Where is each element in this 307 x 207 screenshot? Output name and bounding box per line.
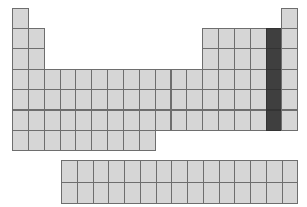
actinide-cell [219, 182, 236, 205]
element-cell [28, 69, 45, 90]
element-cell [60, 89, 77, 110]
actinide-cell [171, 182, 188, 205]
halogen-cell [266, 48, 283, 69]
element-cell [281, 69, 298, 90]
element-cell [202, 69, 219, 90]
element-cell [123, 69, 140, 90]
halogen-cell [266, 28, 283, 49]
element-cell [250, 69, 267, 90]
element-cell [60, 110, 77, 131]
element-cell [250, 89, 267, 110]
element-cell [281, 48, 298, 69]
element-cell [91, 110, 108, 131]
element-cell [12, 110, 29, 131]
actinide-cell [187, 182, 204, 205]
element-cell [28, 130, 45, 151]
element-cell [250, 48, 267, 69]
actinide-cell [140, 182, 157, 205]
actinide-cell [250, 182, 267, 205]
lanthanide-cell [266, 160, 283, 183]
element-cell [234, 48, 251, 69]
element-cell [218, 89, 235, 110]
element-cell [155, 89, 172, 110]
element-cell [139, 69, 156, 90]
halogen-cell [266, 89, 283, 110]
element-cell [218, 110, 235, 131]
element-cell [171, 110, 188, 131]
element-cell [171, 89, 188, 110]
element-cell [107, 69, 124, 90]
element-cell [28, 89, 45, 110]
element-cell [218, 28, 235, 49]
element-cell [234, 69, 251, 90]
actinide-cell [93, 182, 110, 205]
element-cell [123, 130, 140, 151]
element-cell [44, 130, 61, 151]
lanthanide-cell [124, 160, 141, 183]
lanthanide-cell [61, 160, 78, 183]
element-cell [202, 89, 219, 110]
element-cell [44, 69, 61, 90]
element-cell [139, 110, 156, 131]
actinide-cell [266, 182, 283, 205]
element-cell [28, 28, 45, 49]
lanthanide-cell [140, 160, 157, 183]
actinide-cell [77, 182, 94, 205]
element-cell [12, 8, 29, 29]
lanthanide-cell [250, 160, 267, 183]
element-cell [91, 130, 108, 151]
element-cell [250, 110, 267, 131]
actinide-cell [108, 182, 125, 205]
element-cell [123, 89, 140, 110]
actinide-cell [156, 182, 173, 205]
element-cell [60, 69, 77, 90]
element-cell [60, 130, 77, 151]
lanthanide-cell [282, 160, 299, 183]
element-cell [107, 130, 124, 151]
element-cell [218, 48, 235, 69]
element-cell [75, 89, 92, 110]
element-cell [12, 28, 29, 49]
element-cell [186, 69, 203, 90]
actinide-cell [282, 182, 299, 205]
lanthanide-cell [234, 160, 251, 183]
element-cell [202, 110, 219, 131]
lanthanide-cell [93, 160, 110, 183]
element-cell [281, 110, 298, 131]
periodic-table [0, 0, 307, 207]
lanthanide-cell [171, 160, 188, 183]
element-cell [155, 69, 172, 90]
element-cell [202, 28, 219, 49]
element-cell [281, 28, 298, 49]
element-cell [139, 130, 156, 151]
element-cell [218, 69, 235, 90]
element-cell [202, 48, 219, 69]
lanthanide-cell [77, 160, 94, 183]
lanthanide-cell [219, 160, 236, 183]
actinide-cell [203, 182, 220, 205]
element-cell [123, 110, 140, 131]
element-cell [107, 110, 124, 131]
actinide-cell [234, 182, 251, 205]
element-cell [234, 28, 251, 49]
element-cell [44, 89, 61, 110]
actinide-cell [61, 182, 78, 205]
element-cell [12, 69, 29, 90]
element-cell [44, 110, 61, 131]
element-cell [28, 110, 45, 131]
lanthanide-cell [108, 160, 125, 183]
lanthanide-cell [203, 160, 220, 183]
element-cell [234, 89, 251, 110]
element-cell [250, 28, 267, 49]
element-cell [281, 8, 298, 29]
element-cell [91, 69, 108, 90]
element-cell [139, 89, 156, 110]
lanthanide-cell [156, 160, 173, 183]
element-cell [186, 89, 203, 110]
element-cell [171, 69, 188, 90]
halogen-cell [266, 110, 283, 131]
element-cell [75, 130, 92, 151]
element-cell [12, 48, 29, 69]
element-cell [12, 89, 29, 110]
element-cell [234, 110, 251, 131]
